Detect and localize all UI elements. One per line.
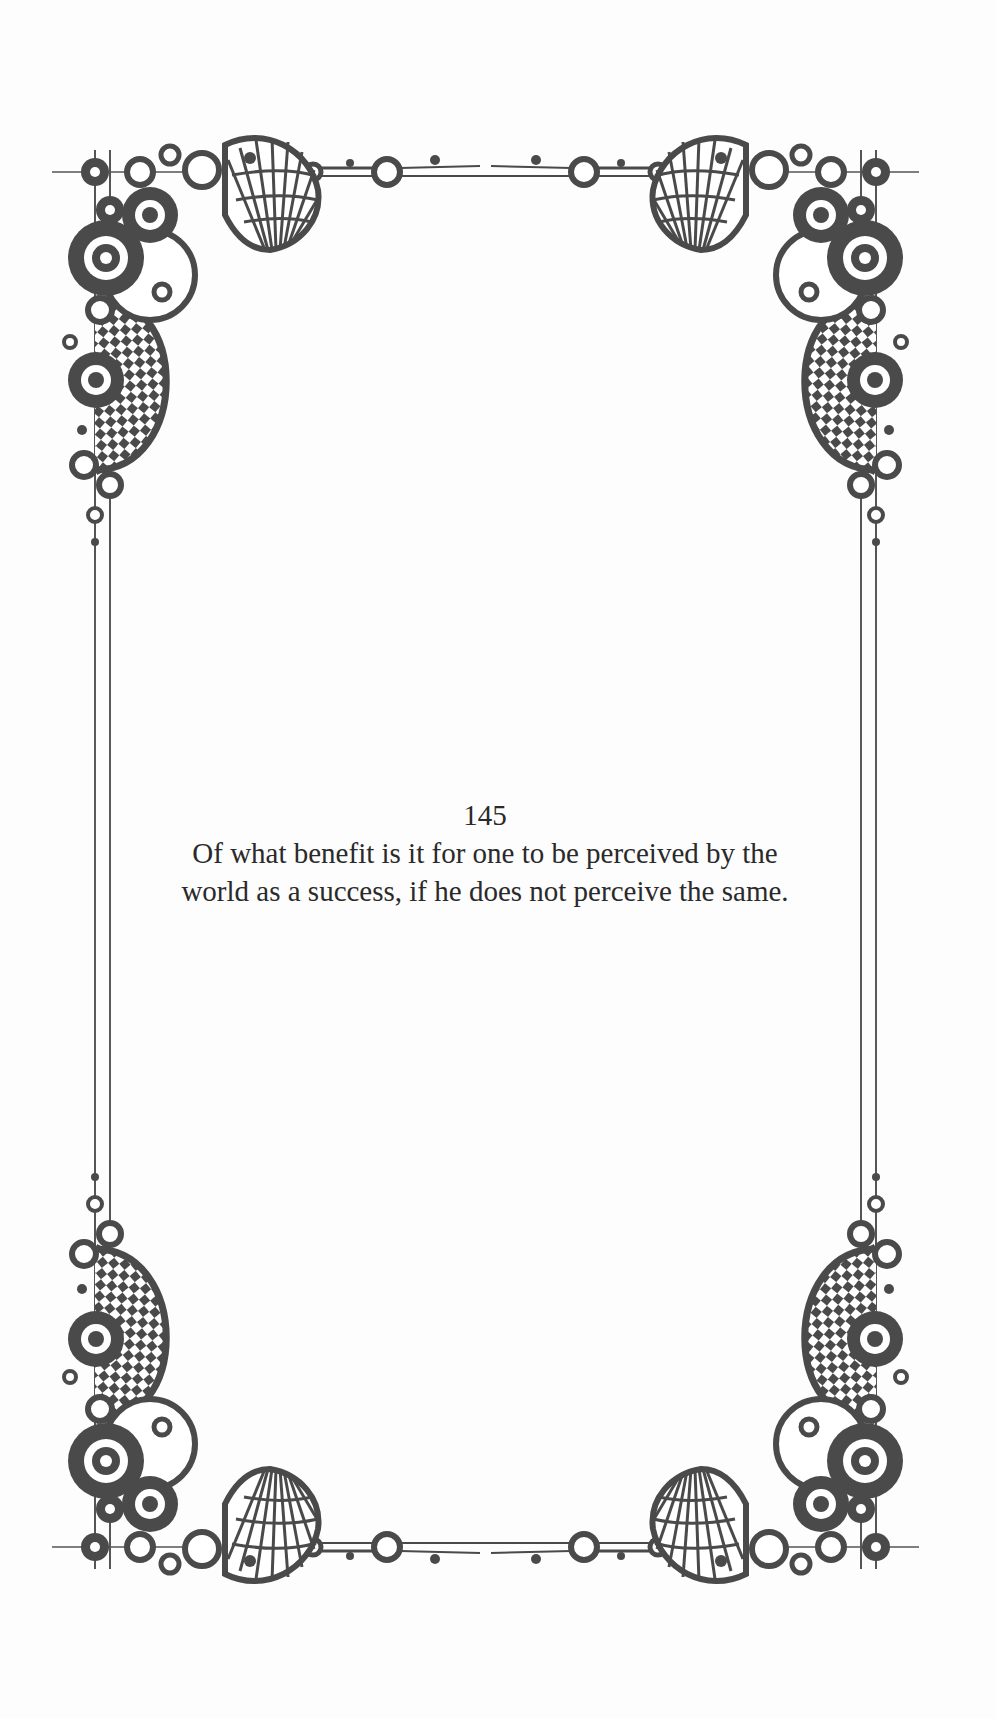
corner-ornament-bottom-right [471,1159,919,1581]
page-content: 145 Of what benefit is it for one to be … [120,796,850,910]
page-number: 145 [120,796,850,834]
corner-ornament-bottom-left [52,1159,500,1581]
corner-ornament-top-left [52,138,500,560]
quote-line-1: Of what benefit is it for one to be perc… [120,834,850,872]
book-page: 145 Of what benefit is it for one to be … [0,0,996,1719]
corner-ornament-top-right [471,138,919,560]
quote-line-2: world as a success, if he does not perce… [120,872,850,910]
